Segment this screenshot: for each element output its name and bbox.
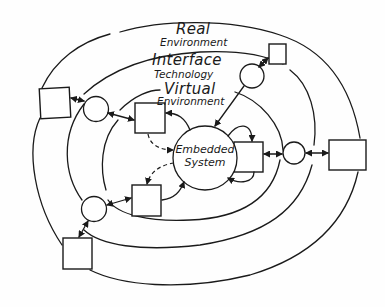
virtual-node-lower [132,185,161,216]
interface-node-lower-left [82,197,107,222]
real-node-bottom-left [63,238,92,269]
real-environment-label-line2: Environment [160,36,227,48]
real-node-top-right [269,44,286,64]
real-node-right [329,140,366,170]
embedded-system-label: Embedded System [175,143,235,169]
interface-technology-label-line2: Technology [154,68,213,80]
interface-node-right [283,142,305,164]
embedded-system-label-line2: System [175,156,235,169]
interface-node-top-right [240,64,264,88]
embedded-system-label-line1: Embedded [175,143,235,156]
diagram-canvas: Real Environment Interface Technology Vi… [0,0,385,307]
virtual-environment-label-line2: Environment [157,95,224,107]
real-node-left [39,87,71,119]
interface-node-left [84,97,109,122]
virtual-node-upper-left [135,103,165,133]
virtual-node-right [234,142,263,172]
interface-technology-label-line1: Interface [152,51,222,69]
